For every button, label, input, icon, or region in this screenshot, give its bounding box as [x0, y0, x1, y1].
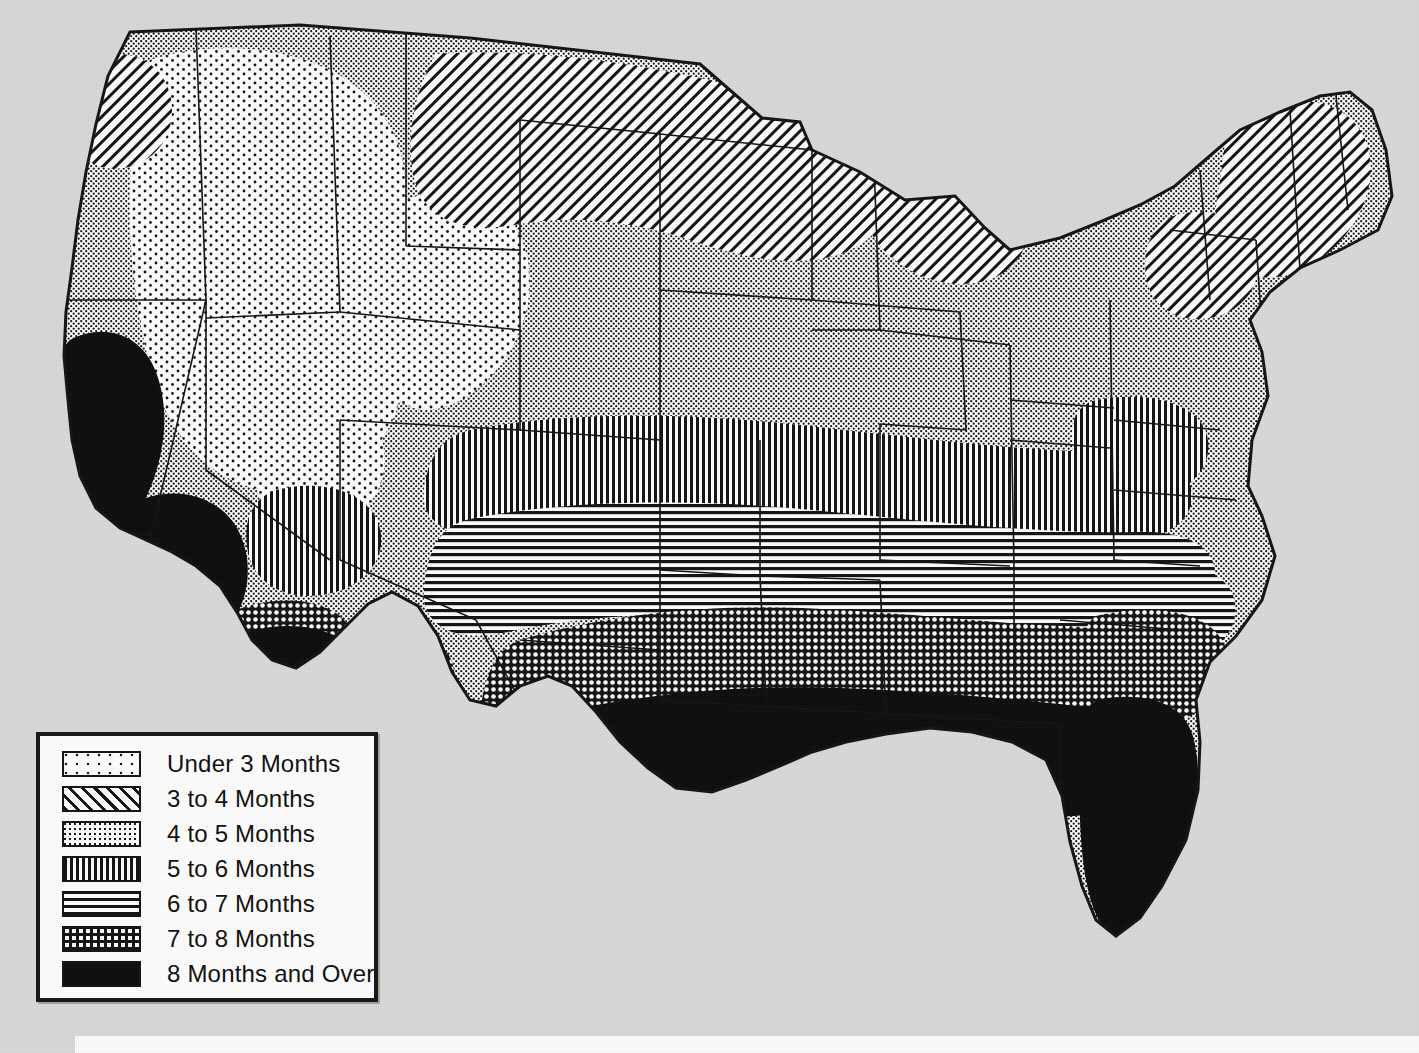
growing-season-legend[interactable]: Under 3 Months 3 to 4 Months 4 to 5 Mont…	[36, 732, 378, 1002]
page-title: AVERAGE LENGTH OF GROWING SEASON	[0, 0, 1419, 7]
map-page: AVERAGE LENGTH OF GROWING SEASON	[0, 0, 1419, 1053]
legend-swatch-fine-stipple-icon	[62, 821, 141, 847]
legend-swatch-horizontal-lines-icon	[62, 891, 141, 917]
legend-label: 5 to 6 Months	[167, 855, 315, 883]
legend-swatch-diagonal-hatch-icon	[62, 786, 141, 812]
legend-rows: Under 3 Months 3 to 4 Months 4 to 5 Mont…	[62, 746, 362, 991]
legend-item-6-to-7-months[interactable]: 6 to 7 Months	[62, 886, 362, 921]
legend-label: 6 to 7 Months	[167, 890, 315, 918]
legend-label: Under 3 Months	[167, 750, 341, 778]
legend-label: 4 to 5 Months	[167, 820, 315, 848]
legend-swatch-vertical-lines-icon	[62, 856, 141, 882]
legend-label: 7 to 8 Months	[167, 925, 315, 953]
legend-item-8-months-and-over[interactable]: 8 Months and Over	[62, 956, 362, 991]
bottom-white-band	[75, 1036, 1419, 1053]
page-title-strip: AVERAGE LENGTH OF GROWING SEASON	[0, 0, 1419, 7]
legend-swatch-cross-hatch-icon	[62, 926, 141, 952]
legend-item-7-to-8-months[interactable]: 7 to 8 Months	[62, 921, 362, 956]
legend-item-3-to-4-months[interactable]: 3 to 4 Months	[62, 781, 362, 816]
legend-label: 3 to 4 Months	[167, 785, 315, 813]
legend-item-4-to-5-months[interactable]: 4 to 5 Months	[62, 816, 362, 851]
legend-item-under-3-months[interactable]: Under 3 Months	[62, 746, 362, 781]
legend-item-5-to-6-months[interactable]: 5 to 6 Months	[62, 851, 362, 886]
legend-label: 8 Months and Over	[167, 960, 375, 988]
legend-swatch-dots-sparse-icon	[62, 751, 141, 777]
legend-swatch-solid-black-icon	[62, 961, 141, 987]
